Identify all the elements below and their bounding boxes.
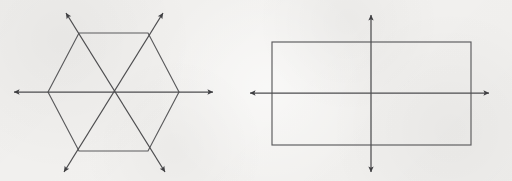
figure-page	[0, 0, 512, 181]
geometry-figure-canvas	[0, 0, 512, 181]
rectangle-figure	[250, 15, 489, 172]
rectangle-symmetry-axes	[250, 15, 489, 172]
hexagon-symmetry-axes	[14, 13, 213, 172]
hexagon-figure	[14, 13, 213, 172]
